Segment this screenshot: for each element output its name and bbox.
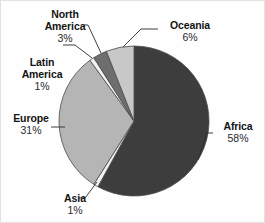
slice-label-oceania: Oceania 6% [161, 20, 219, 44]
slice-label-north-america-line2: America [34, 21, 96, 33]
slice-value-north-america: 3% [34, 33, 96, 45]
slice-label-oceania-name: Oceania [161, 20, 219, 32]
slice-value-europe: 31% [3, 125, 59, 137]
leader-line-oceania [123, 29, 158, 47]
slice-value-oceania: 6% [161, 32, 219, 44]
slice-label-europe-name: Europe [3, 113, 59, 125]
pie-chart-figure: North America 3% Latin America 1% Europe… [0, 0, 265, 223]
slice-label-africa-name: Africa [215, 121, 261, 133]
slice-label-north-america: North America 3% [34, 9, 96, 44]
slice-label-asia: Asia 1% [53, 193, 97, 217]
slice-label-latin-america-line1: Latin [11, 57, 73, 69]
slice-value-asia: 1% [53, 205, 97, 217]
slice-label-europe: Europe 31% [3, 113, 59, 137]
slice-value-africa: 58% [215, 133, 261, 145]
slice-label-africa: Africa 58% [215, 121, 261, 145]
slice-label-latin-america: Latin America 1% [11, 57, 73, 92]
slice-value-latin-america: 1% [11, 81, 73, 93]
slice-label-north-america-line1: North [34, 9, 96, 21]
slice-label-latin-america-line2: America [11, 69, 73, 81]
slice-label-asia-name: Asia [53, 193, 97, 205]
pie-slices [59, 46, 209, 196]
